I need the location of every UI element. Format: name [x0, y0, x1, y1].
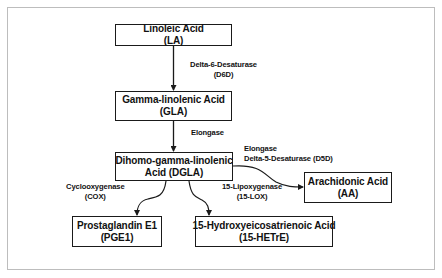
node-name: Dihomo-gamma-linolenic: [115, 155, 232, 167]
node-name: Prostaglandin E1: [77, 220, 157, 232]
node-abbr: (15-HETrE): [239, 232, 289, 244]
node-abbr: (LA): [164, 35, 184, 47]
node-abbr: Acid (DGLA): [145, 167, 203, 179]
edge-label-cox: Cyclooxygenase (COX): [66, 182, 125, 201]
node-name: Gamma-linolenic Acid: [122, 94, 225, 106]
edge-label-15-lox: 15-Lipoxygenase (15-LOX): [222, 182, 282, 201]
node-name: 15-Hydroxyeicosatrienoic Acid: [193, 220, 336, 232]
node-dihomo-gamma-linolenic-acid: Dihomo-gamma-linolenic Acid (DGLA): [115, 152, 233, 181]
node-name: Arachidonic Acid: [308, 176, 388, 188]
edge-label-d6d: Delta-6-Desaturase (D6D): [190, 60, 257, 79]
node-name: Linoleic Acid: [143, 23, 204, 35]
node-gamma-linolenic-acid: Gamma-linolenic Acid (GLA): [115, 91, 232, 121]
edge-label-d5d: Elongase Delta-5-Desaturase (D5D): [244, 144, 333, 163]
edge-label-elongase: Elongase: [191, 128, 224, 138]
arrow-dgla-to-pge1: [137, 181, 166, 215]
node-15-hetre: 15-Hydroxyeicosatrienoic Acid (15-HETrE): [195, 216, 333, 247]
node-abbr: (AA): [338, 188, 359, 200]
node-arachidonic-acid: Arachidonic Acid (AA): [304, 172, 392, 203]
arrow-dgla-to-hetre: [189, 181, 209, 215]
node-abbr: (GLA): [160, 106, 187, 118]
node-abbr: (PGE1): [101, 232, 134, 244]
node-linoleic-acid: Linoleic Acid (LA): [115, 24, 232, 46]
node-prostaglandin-e1: Prostaglandin E1 (PGE1): [72, 216, 162, 247]
